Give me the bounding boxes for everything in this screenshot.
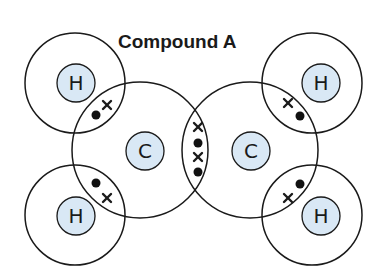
electron-cross-icon [194,153,202,161]
electron-cross-icon [284,194,292,202]
electron-dot-icon [92,111,101,120]
h-symbol-bottom-left: H [68,204,83,228]
electron-dot-icon [194,139,203,148]
electron-dot-icon [296,112,305,121]
electron-cross-icon [103,194,111,202]
bond-c-h-bottom-right [284,180,305,203]
bond-c-h-bottom-left [92,179,112,203]
h-symbol-bottom-right: H [313,204,328,228]
electron-cross-icon [284,99,292,107]
electron-cross-icon [103,101,111,109]
diagram-canvas: Compound A H H H H C C [0,0,387,280]
c-symbol-right: C [244,139,258,163]
bond-c-c-double [194,123,203,177]
diagram-title: Compound A [118,31,237,52]
electron-dot-icon [194,168,203,177]
dot-and-cross-diagram: Compound A H H H H C C [0,0,387,280]
h-symbol-top-left: H [68,71,83,95]
electron-cross-icon [194,123,202,131]
h-symbol-top-right: H [313,71,328,95]
electron-dot-icon [296,180,305,189]
bond-c-h-top-right [284,99,305,121]
electron-dot-icon [92,179,101,188]
bond-c-h-top-left [92,101,112,120]
c-symbol-left: C [138,139,152,163]
